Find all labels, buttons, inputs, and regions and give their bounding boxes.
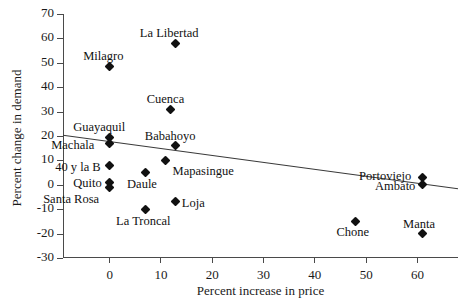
x-tick-label: 40 (308, 267, 321, 283)
data-point-label: Chone (336, 225, 369, 239)
data-point-label: Machala (51, 138, 94, 152)
y-tick-label: 0 (48, 176, 55, 192)
y-axis-label: Percent change in demand (9, 63, 25, 213)
data-point-label: La Troncal (116, 214, 171, 228)
data-point-label: Quito (73, 176, 101, 190)
plot-area: -30-20-10010203040506070 0102030405060 L… (63, 14, 458, 258)
x-tick-label: 0 (106, 267, 113, 283)
data-point-label: Cuenca (147, 92, 184, 106)
x-tick: 30 (263, 258, 264, 263)
x-axis-label: Percent increase in price (63, 283, 458, 299)
y-tick-label: -30 (37, 249, 54, 265)
y-tick-label: 30 (41, 103, 54, 119)
x-tick: 60 (417, 258, 418, 263)
x-tick-label: 30 (257, 267, 270, 283)
x-tick: 20 (212, 258, 213, 263)
chart-figure: -30-20-10010203040506070 0102030405060 L… (0, 0, 472, 303)
x-tick: 0 (109, 258, 110, 263)
data-point-label: Mapasingue (173, 164, 234, 178)
data-point-label: 40 y la B (55, 160, 100, 174)
y-tick-label: 50 (41, 54, 54, 70)
x-tick: 40 (314, 258, 315, 263)
x-tick: 10 (160, 258, 161, 263)
x-tick-label: 10 (154, 267, 167, 283)
y-tick-label: 60 (41, 29, 54, 45)
data-point-label: Babahoyo (145, 129, 196, 143)
data-point-label: Guayaquil (73, 120, 125, 134)
cropped-caption-fragment (6, 0, 126, 4)
data-point-label: Milagro (83, 49, 123, 63)
x-tick-label: 60 (411, 267, 424, 283)
data-point-label: Daule (127, 177, 157, 191)
y-tick-label: 70 (41, 5, 54, 21)
data-point-label: Ambato (375, 179, 415, 193)
data-point-label: La Libertad (140, 26, 199, 40)
x-tick: 50 (366, 258, 367, 263)
y-tick-label: 10 (41, 151, 54, 167)
data-point-label: Manta (403, 217, 435, 231)
y-tick: -30 (57, 258, 63, 259)
x-tick-label: 20 (206, 267, 219, 283)
y-tick-label: 40 (41, 78, 54, 94)
data-point-label: Santa Rosa (43, 192, 99, 206)
y-tick-label: -20 (37, 225, 54, 241)
x-tick-label: 50 (360, 267, 373, 283)
data-point-label: Loja (182, 196, 205, 210)
